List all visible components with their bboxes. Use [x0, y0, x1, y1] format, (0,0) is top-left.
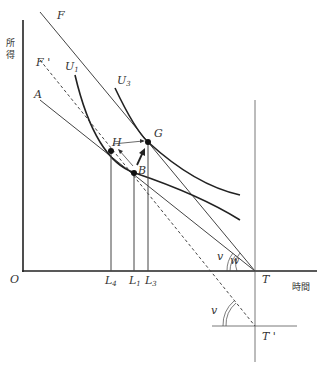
- line-label-F: F: [56, 9, 65, 22]
- tick-label-L1: L1: [128, 274, 141, 288]
- y-axis-label-2: 得: [6, 49, 15, 60]
- point-label-H: H: [111, 136, 122, 149]
- point-label-T: T: [262, 273, 271, 286]
- point-B: [131, 170, 137, 176]
- point-label-B: B: [137, 164, 146, 177]
- labor-supply-diagram: 所 得 時間 O F F ' A U1 U3 G H B T T ' L4 L1…: [0, 0, 322, 370]
- angle-label-v-lower: v: [211, 304, 218, 317]
- y-axis-label-1: 所: [6, 38, 15, 48]
- tick-label-L3: L3: [144, 274, 157, 288]
- angle-arc-v-lower-2: [226, 303, 236, 326]
- point-label-T-prime: T ': [262, 330, 276, 343]
- x-axis-label: 時間: [292, 282, 310, 292]
- curve-label-U3: U3: [117, 74, 131, 88]
- line-label-A: A: [33, 88, 42, 101]
- point-label-G: G: [154, 127, 163, 140]
- tick-label-L4: L4: [104, 274, 117, 288]
- arrow-head-H-to-G: [140, 139, 145, 143]
- line-label-F-prime: F ': [35, 56, 50, 69]
- origin-label: O: [10, 273, 19, 286]
- angle-label-v-upper: v: [217, 250, 224, 263]
- angle-label-w: w: [230, 254, 240, 267]
- point-G: [145, 139, 151, 145]
- curve-label-U1: U1: [65, 60, 79, 74]
